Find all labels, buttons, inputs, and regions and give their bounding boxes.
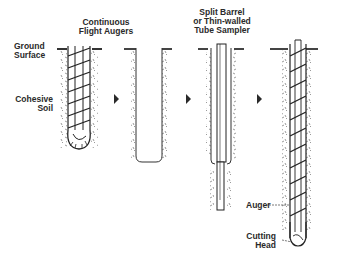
step-3-sampler [198, 44, 244, 210]
diagram-canvas [0, 0, 341, 265]
step-2-borehole [124, 48, 172, 162]
cutting-head-label: Cutting Head [234, 232, 276, 250]
auger-label: Auger [246, 201, 271, 210]
ground-surface-label: Ground Surface [14, 42, 45, 60]
arrow-icon [114, 94, 119, 104]
augers-label: Continuous Flight Augers [68, 18, 144, 36]
step-4-auger [266, 40, 318, 246]
cohesive-soil-label: Cohesive Soil [8, 95, 53, 113]
step-1-auger [57, 46, 102, 149]
arrow-icon [186, 94, 191, 104]
sampler-label: Split Barrel or Thin-walled Tube Sampler [184, 8, 260, 35]
arrow-icon [257, 94, 262, 104]
